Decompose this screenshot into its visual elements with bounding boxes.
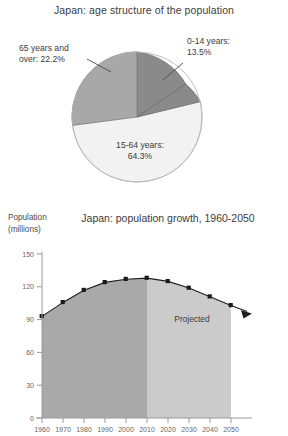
trend-arrow-shaft [231,305,247,311]
pie-label-0-14-line1: 0-14 years: [187,36,230,46]
x-tick-label-2010: 2010 [139,426,155,433]
x-tick-label-2030: 2030 [181,426,197,433]
y-tick-label-120: 120 [22,283,34,290]
x-tick-label-2000: 2000 [118,426,134,433]
pie-label-65-over-line2: over: 22.2% [19,54,65,64]
y-tick-label-150: 150 [22,251,34,258]
projected-annotation: Projected [174,314,210,324]
pie-label-65-over-line1: 65 years and [19,43,69,53]
pie-label-15-64-line2: 64.3% [128,151,153,161]
x-tick-label-1970: 1970 [55,426,71,433]
data-point-1990 [103,280,107,284]
x-tick-label-2040: 2040 [202,426,218,433]
area-projected [147,278,231,418]
line-chart-figure: Japan: population growth, 1960-2050 Popu… [0,200,288,436]
pie-label-0-14-line2: 13.5% [187,47,212,57]
pie-slice-65-over [72,52,137,125]
y-tick-label-0: 0 [30,415,34,422]
x-tick-label-2020: 2020 [160,426,176,433]
data-point-2020 [166,279,170,283]
data-point-2000 [124,277,128,281]
y-axis-title-line1: Population [8,213,47,222]
y-tick-label-30: 30 [26,382,34,389]
pie-label-15-64-line1: 15-64 years: [116,140,164,150]
pie-chart-svg: 0-14 years: 13.5% 65 years and over: 22.… [0,0,288,200]
x-tick-label-1960: 1960 [34,426,50,433]
data-point-2030 [187,286,191,290]
x-tick-label-2050: 2050 [223,426,239,433]
data-point-1970 [61,300,65,304]
area-actual [42,278,147,418]
data-point-2010 [145,276,149,280]
line-chart-title: Japan: population growth, 1960-2050 [81,212,255,224]
data-point-2040 [208,294,212,298]
data-point-1980 [82,288,86,292]
pie-chart-figure: Japan: age structure of the population 0… [0,0,288,200]
x-axis-ticks [42,418,231,423]
y-axis-title-line2: (millions) [8,225,41,234]
line-chart-svg: Japan: population growth, 1960-2050 Popu… [0,200,288,436]
y-tick-label-60: 60 [26,349,34,356]
y-axis-ticks [37,254,42,418]
data-point-2050 [229,303,233,307]
x-tick-label-1990: 1990 [97,426,113,433]
x-tick-label-1980: 1980 [76,426,92,433]
y-tick-label-90: 90 [26,316,34,323]
pie-chart-title: Japan: age structure of the population [0,4,288,16]
